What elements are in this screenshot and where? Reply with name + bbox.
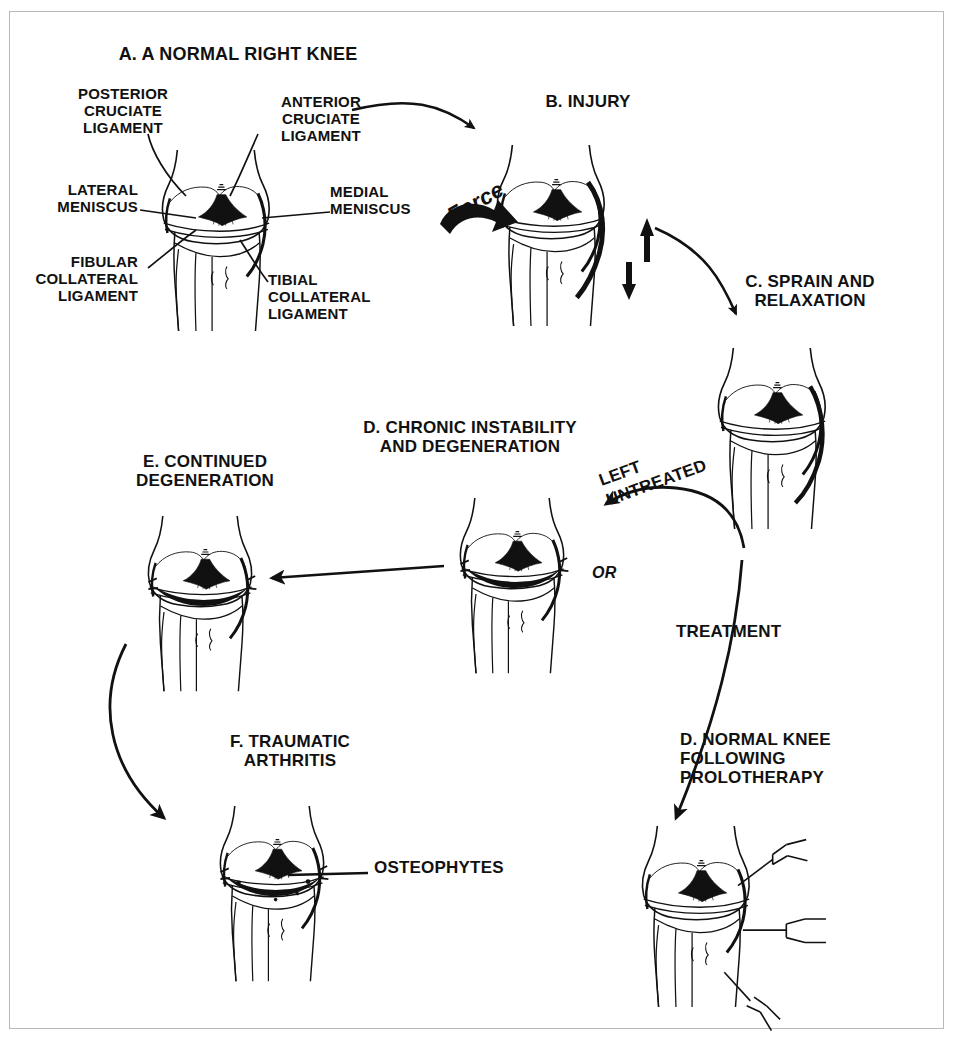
figure-canvas: A. A NORMAL RIGHT KNEE POSTERIOR CRUCIAT… (0, 0, 955, 1045)
panel-c-title: C. SPRAIN AND RELAXATION (700, 272, 920, 310)
arrow-e-to-f (110, 644, 164, 818)
instability-arrows (622, 218, 654, 300)
knee-illustration-e (148, 516, 256, 691)
label-anterior-cruciate-ligament: ANTERIOR CRUCIATE LIGAMENT (256, 94, 386, 145)
label-tibial-collateral-ligament: TIBIAL COLLATERAL LIGAMENT (268, 272, 408, 323)
diagram-artwork (0, 0, 955, 1045)
panel-d-prolotherapy-title: D. NORMAL KNEE FOLLOWING PROLOTHERAPY (680, 730, 890, 788)
label-lateral-meniscus: LATERAL MENISCUS (18, 182, 138, 216)
arrow-d-to-e (272, 566, 444, 578)
panel-a-title: A. A NORMAL RIGHT KNEE (88, 44, 388, 64)
panel-b-title: B. INJURY (498, 92, 678, 111)
knee-illustration-f (220, 806, 328, 981)
label-osteophytes: OSTEOPHYTES (374, 858, 574, 877)
knee-illustration-a (163, 150, 270, 331)
label-treatment: TREATMENT (676, 622, 836, 641)
panel-f-title: F. TRAUMATIC ARTHRITIS (190, 732, 390, 770)
label-fibular-collateral-ligament: FIBULAR COLLATERAL LIGAMENT (10, 254, 138, 305)
label-left-untreated: LEFT UNTREATED (596, 452, 746, 514)
leader-line-osteophytes (288, 873, 368, 875)
knee-illustration-prolotherapy (643, 826, 826, 1031)
label-posterior-cruciate-ligament: POSTERIOR CRUCIATE LIGAMENT (58, 86, 188, 137)
panel-d-chronic-title: D. CHRONIC INSTABILITY AND DEGENERATION (330, 418, 610, 456)
label-force: Force (418, 182, 528, 232)
label-or: OR (592, 564, 642, 582)
label-force-text: Force (443, 177, 508, 228)
knee-illustration-b (498, 145, 605, 326)
panel-e-title: E. CONTINUED DEGENERATION (90, 452, 320, 490)
knee-illustration-d-chronic (460, 498, 568, 673)
